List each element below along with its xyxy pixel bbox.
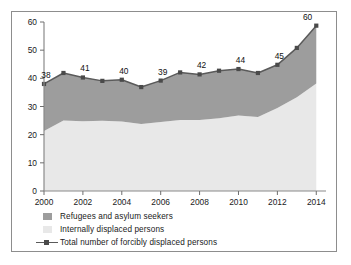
data-point-value-label: 60: [303, 12, 313, 22]
legend-swatch-total-wrap: [34, 239, 60, 246]
x-axis-tick-label: 2004: [112, 197, 131, 207]
total-line-marker: [217, 69, 221, 73]
data-point-value-label: 39: [158, 67, 168, 77]
total-line-marker: [256, 71, 260, 75]
x-axis-tick-label: 2002: [74, 197, 93, 207]
data-point-value-label: 44: [236, 55, 246, 65]
total-line-marker: [275, 63, 279, 67]
data-point-value-label: 42: [197, 60, 207, 70]
data-point-value-label: 40: [119, 66, 129, 76]
total-line-marker: [139, 85, 143, 89]
square-swatch-dark-icon: [43, 213, 52, 220]
data-point-value-label: 38: [41, 70, 51, 80]
total-line-marker: [159, 78, 163, 82]
x-axis-tick-label: 2000: [35, 197, 54, 207]
total-line-marker: [100, 79, 104, 83]
x-axis-tick-label: 2012: [268, 197, 287, 207]
x-axis-tick-label: 2010: [229, 197, 248, 207]
y-axis-tick-label: 20: [28, 130, 38, 140]
y-axis-tick-label: 60: [28, 17, 38, 27]
total-line-marker: [178, 70, 182, 74]
square-swatch-light-icon: [43, 226, 52, 233]
x-axis-tick-label: 2006: [151, 197, 170, 207]
y-axis-tick-label: 0: [32, 186, 37, 196]
legend-item-idp: Internally displaced persons: [34, 223, 324, 236]
total-line-marker: [295, 46, 299, 50]
legend-label-idp: Internally displaced persons: [60, 224, 164, 235]
legend-label-refugees: Refugees and asylum seekers: [60, 211, 173, 222]
data-point-value-label: 41: [80, 63, 90, 73]
total-line-marker: [61, 71, 65, 75]
y-axis-tick-label: 30: [28, 102, 38, 112]
legend-swatch-idp-wrap: [34, 226, 60, 233]
total-line-marker: [81, 75, 85, 79]
total-line-marker: [314, 24, 318, 28]
legend-label-total: Total number of forcibly displaced perso…: [60, 237, 217, 248]
x-axis-tick-label: 2014: [307, 197, 326, 207]
chart-legend: Refugees and asylum seekers Internally d…: [34, 210, 324, 249]
total-line-marker: [197, 72, 201, 76]
y-axis-ticks: 6050403020100: [28, 17, 44, 196]
data-point-value-label: 45: [275, 51, 285, 61]
chart-figure-frame: 6050403020100 20002002200420062008201020…: [11, 11, 337, 252]
x-axis-tick-label: 2008: [190, 197, 209, 207]
y-axis-tick-label: 10: [28, 158, 38, 168]
y-axis-tick-label: 40: [28, 73, 38, 83]
total-line-marker: [120, 78, 124, 82]
line-marker-swatch-icon: [36, 239, 58, 246]
total-line-marker: [236, 67, 240, 71]
legend-swatch-refugees-wrap: [34, 213, 60, 220]
y-axis-tick-label: 50: [28, 45, 38, 55]
legend-item-total: Total number of forcibly displaced perso…: [34, 236, 324, 249]
legend-item-refugees: Refugees and asylum seekers: [34, 210, 324, 223]
